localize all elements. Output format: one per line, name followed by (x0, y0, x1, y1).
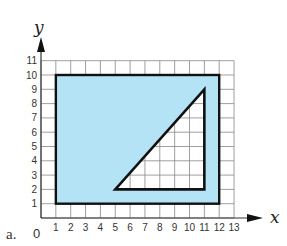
x-tick-label: 7 (142, 222, 148, 233)
y-tick-label: 1 (31, 198, 37, 209)
y-tick-label: 2 (31, 184, 37, 195)
x-tick-label: 2 (68, 222, 74, 233)
x-axis-label: x (270, 207, 280, 227)
y-tick-label: 6 (31, 127, 37, 138)
x-tick-label: 12 (214, 222, 226, 233)
y-tick-label: 3 (31, 170, 37, 181)
coordinate-grid-figure: 123456789101112131234567891011 y x 0 a. (0, 0, 287, 246)
x-tick-label: 10 (184, 222, 196, 233)
y-tick-label: 4 (31, 155, 37, 166)
x-tick-label: 8 (157, 222, 163, 233)
y-tick-label: 5 (31, 141, 37, 152)
y-tick-label: 9 (31, 84, 37, 95)
y-tick-label: 8 (31, 98, 37, 109)
x-tick-label: 6 (127, 222, 133, 233)
x-tick-label: 11 (199, 222, 210, 233)
x-tick-label: 1 (53, 222, 59, 233)
x-tick-label: 9 (172, 222, 178, 233)
part-label: a. (6, 226, 16, 242)
x-tick-label: 5 (112, 222, 118, 233)
x-tick-label: 3 (83, 222, 89, 233)
y-tick-label: 11 (27, 55, 38, 66)
x-tick-label: 13 (228, 222, 240, 233)
x-tick-label: 4 (98, 222, 104, 233)
y-tick-label: 10 (26, 70, 38, 81)
y-axis-label: y (33, 17, 44, 37)
origin-label: 0 (33, 226, 40, 241)
y-tick-label: 7 (31, 112, 37, 123)
